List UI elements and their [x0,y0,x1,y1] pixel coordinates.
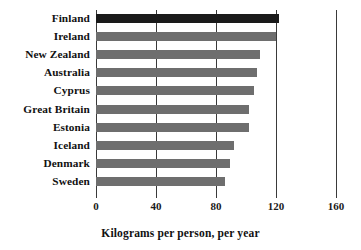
x-axis-ticks [96,192,336,200]
plot-area [96,10,336,192]
category-label-denmark: Denmark [0,158,90,169]
x-axis-tick-labels: 04080120160 [96,200,336,216]
bar-great-britain [96,105,249,114]
bar-ireland [96,32,276,41]
gridline-160 [336,10,337,196]
category-label-iceland: Iceland [0,140,90,151]
bar-sweden [96,177,225,186]
category-label-sweden: Sweden [0,176,90,187]
tick-label-0: 0 [93,200,99,212]
tick-label-40: 40 [151,200,162,212]
tick-0 [96,192,97,198]
category-label-cyprus: Cyprus [0,85,90,96]
bar-cyprus [96,86,254,95]
tick-160 [336,192,337,198]
bar-iceland [96,141,234,150]
bar-new-zealand [96,50,260,59]
category-label-great-britain: Great Britain [0,104,90,115]
bar-denmark [96,159,230,168]
category-axis-labels: FinlandIrelandNew ZealandAustraliaCyprus… [0,10,90,192]
category-label-new-zealand: New Zealand [0,49,90,60]
tick-label-120: 120 [268,200,285,212]
tick-label-160: 160 [328,200,345,212]
bar-australia [96,68,257,77]
x-axis-title: Kilograms per person, per year [0,227,361,239]
gridline-120 [276,10,277,196]
tick-80 [216,192,217,198]
category-label-australia: Australia [0,67,90,78]
bar-finland [96,14,279,23]
tick-40 [156,192,157,198]
tick-120 [276,192,277,198]
category-label-finland: Finland [0,13,90,24]
tick-label-80: 80 [211,200,222,212]
category-label-estonia: Estonia [0,122,90,133]
bar-chart: FinlandIrelandNew ZealandAustraliaCyprus… [0,0,361,250]
category-label-ireland: Ireland [0,31,90,42]
bar-estonia [96,123,249,132]
